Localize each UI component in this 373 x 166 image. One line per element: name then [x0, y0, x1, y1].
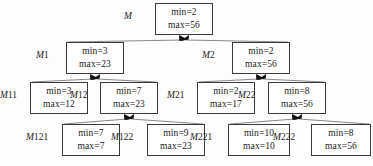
node-min-value: min=8 — [328, 127, 353, 140]
node-label-m: M — [0, 90, 8, 100]
node-label-M2: M2 — [202, 50, 215, 60]
node-max-value: max=56 — [325, 140, 357, 153]
tree-node-M2[interactable]: min=2max=56 — [232, 42, 290, 74]
node-label-M221: M221 — [190, 132, 212, 142]
node-min-value: min=10 — [244, 127, 274, 140]
node-max-value: max=10 — [243, 140, 275, 153]
node-label-M222: M222 — [273, 132, 295, 142]
node-label-m: M — [238, 90, 246, 100]
node-min-value: min=9 — [163, 127, 188, 140]
node-label-M: M — [124, 11, 132, 21]
node-label-index: 2 — [210, 50, 215, 60]
node-min-value: min=7 — [116, 85, 141, 98]
node-label-M22: M22 — [238, 90, 255, 100]
node-label-index: 21 — [175, 90, 185, 100]
node-label-m: M — [190, 132, 198, 142]
node-max-value: max=23 — [160, 140, 192, 153]
tree-node-M1[interactable]: min=3max=23 — [66, 42, 124, 74]
node-max-value: max=7 — [78, 140, 105, 153]
node-min-value: min=2 — [248, 45, 273, 58]
node-min-value: min=2 — [171, 6, 196, 19]
node-label-M21: M21 — [167, 90, 184, 100]
node-label-m: M — [273, 132, 281, 142]
tree-node-M222[interactable]: min=8max=56 — [311, 124, 371, 156]
node-min-value: min=3 — [46, 85, 71, 98]
node-label-M11: M11 — [0, 90, 17, 100]
tree-node-M22[interactable]: min=8max=56 — [268, 82, 326, 114]
node-label-index: 121 — [34, 132, 48, 142]
node-label-M1: M1 — [36, 50, 49, 60]
tree-node-M12[interactable]: min=7max=23 — [100, 82, 158, 114]
node-max-value: max=23 — [79, 58, 111, 71]
node-label-index: 1 — [44, 50, 49, 60]
node-label-m: M — [26, 132, 34, 142]
node-label-index: 222 — [281, 132, 295, 142]
node-min-value: min=2 — [213, 85, 238, 98]
node-label-M122: M122 — [111, 132, 133, 142]
node-label-m: M — [202, 50, 210, 60]
tree-node-M[interactable]: min=2max=56 — [155, 3, 213, 35]
node-label-index: 22 — [246, 90, 256, 100]
node-label-M121: M121 — [26, 132, 48, 142]
node-label-index: 221 — [198, 132, 212, 142]
node-label-m: M — [111, 132, 119, 142]
node-label-m: M — [36, 50, 44, 60]
node-min-value: min=8 — [284, 85, 309, 98]
node-max-value: max=56 — [245, 58, 277, 71]
node-max-value: max=56 — [281, 98, 313, 111]
node-label-index: 122 — [119, 132, 133, 142]
node-label-m: M — [70, 90, 78, 100]
node-min-value: min=3 — [82, 45, 107, 58]
node-label-index: 11 — [8, 90, 17, 100]
node-max-value: max=23 — [113, 98, 145, 111]
node-label-index: 12 — [78, 90, 88, 100]
node-label-M12: M12 — [70, 90, 87, 100]
node-label-m: M — [124, 11, 132, 21]
node-min-value: min=7 — [78, 127, 103, 140]
node-label-m: M — [167, 90, 175, 100]
node-max-value: max=56 — [168, 19, 200, 32]
